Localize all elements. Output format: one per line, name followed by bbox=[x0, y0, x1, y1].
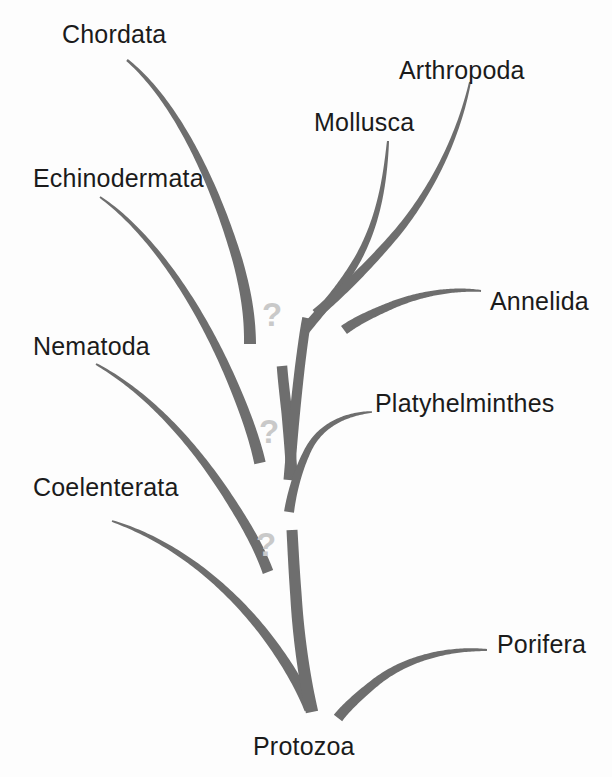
question-mark-q-middle: ? bbox=[259, 415, 279, 448]
phylum-label-nematoda: Nematoda bbox=[33, 334, 150, 359]
phylum-label-arthropoda: Arthropoda bbox=[399, 58, 525, 83]
phylum-label-protozoa: Protozoa bbox=[253, 734, 355, 759]
branch-nematoda bbox=[96, 363, 274, 574]
question-mark-q-upper: ? bbox=[262, 298, 282, 331]
phylum-label-coelenterata: Coelenterata bbox=[33, 475, 179, 500]
phylum-label-echinodermata: Echinodermata bbox=[33, 166, 204, 191]
phylum-label-chordata: Chordata bbox=[62, 22, 166, 47]
branch-echinodermata bbox=[99, 196, 265, 464]
phylum-label-porifera: Porifera bbox=[497, 632, 586, 657]
phylum-label-mollusca: Mollusca bbox=[314, 110, 414, 135]
phylum-label-platyhelminthes: Platyhelminthes bbox=[375, 391, 554, 416]
branch-coelenterata bbox=[112, 520, 316, 711]
branch-mollusca bbox=[301, 141, 389, 333]
branch-porifera bbox=[334, 648, 487, 721]
branch-protozoa bbox=[287, 530, 319, 714]
phylum-label-annelida: Annelida bbox=[490, 289, 589, 314]
question-mark-q-lower: ? bbox=[256, 528, 276, 561]
branch-annelida bbox=[341, 289, 481, 334]
phylogenetic-tree-figure: ChordataArthropodaMolluscaEchinodermataA… bbox=[0, 0, 612, 777]
